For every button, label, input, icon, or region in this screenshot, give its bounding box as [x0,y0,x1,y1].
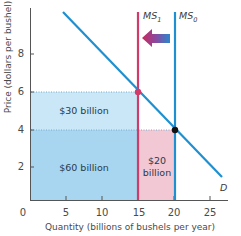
x-tick-label-10: 10 [96,207,109,218]
ms0-label: MS0 [179,10,197,24]
equilibrium-point-ms0 [172,127,178,133]
origin-label: 0 [20,207,26,218]
x-axis-title: Quantity (billions of bushels per year) [45,222,215,232]
area-label-20-line1: $20 [148,155,166,166]
y-tick-label-4: 4 [18,124,24,135]
market-chart: 8 6 4 2 0 5 10 15 20 25 Price (dollars p… [0,0,241,236]
equilibrium-point-ms1 [135,89,141,95]
y-tick-label-2: 2 [18,161,24,172]
y-axis-title: Price (dollars per bushel) [3,1,13,113]
x-tick-label-25: 25 [204,207,217,218]
y-tick-label-6: 6 [18,86,24,97]
shift-left-arrow-icon [142,29,170,47]
x-tick-label-5: 5 [63,207,69,218]
demand-label: D [220,182,227,193]
area-label-30-billion: $30 billion [59,105,109,116]
area-label-60-billion: $60 billion [59,162,109,173]
y-tick-label-8: 8 [18,48,24,59]
ms1-label: MS1 [143,10,161,24]
x-tick-label-15: 15 [133,207,146,218]
x-tick-label-20: 20 [168,207,181,218]
area-label-20-line2: billion [143,167,171,178]
